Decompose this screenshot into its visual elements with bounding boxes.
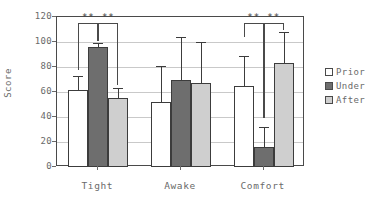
legend-swatch-after: [325, 96, 333, 104]
y-axis-tick-mark: [52, 166, 56, 167]
legend-label: Under: [336, 81, 365, 91]
bracket-right-arm: [117, 23, 118, 84]
y-axis-tick-label: 80: [14, 61, 52, 71]
bracket-crossbar: [98, 23, 118, 24]
x-axis-tick-mark: [97, 166, 98, 170]
chart-legend: PriorUnderAfter: [325, 65, 365, 107]
bar-under-tight: [88, 47, 108, 167]
error-bar-stem: [244, 56, 245, 86]
x-axis-tick-mark: [263, 166, 264, 170]
bar-prior-tight: [68, 90, 88, 168]
error-bar-cap: [93, 43, 103, 44]
error-bar-cap: [196, 42, 206, 43]
x-axis-tick-label-comfort: Comfort: [221, 180, 304, 191]
significance-marker: **: [98, 13, 118, 22]
y-axis-tick-label: 0: [14, 161, 52, 171]
x-axis-tick-mark: [180, 166, 181, 170]
bracket-left-arm: [78, 23, 79, 69]
error-bar-stem: [264, 127, 265, 147]
error-bar-cap: [279, 32, 289, 33]
bracket-crossbar: [244, 23, 264, 24]
error-bar-cap: [113, 88, 123, 89]
bracket-crossbar: [264, 23, 284, 24]
bar-after-comfort: [274, 63, 294, 167]
bracket-crossbar: [78, 23, 98, 24]
bar-prior-awake: [151, 102, 171, 167]
bar-after-tight: [108, 98, 128, 167]
legend-item-under[interactable]: Under: [325, 79, 365, 93]
legend-swatch-under: [325, 82, 333, 90]
error-bar-cap: [239, 56, 249, 57]
plot-inner: ********: [57, 17, 303, 165]
significance-marker: **: [264, 13, 284, 22]
bar-under-awake: [171, 80, 191, 168]
y-axis-tick-label: 120: [14, 11, 52, 21]
legend-label: Prior: [336, 67, 365, 77]
y-axis-tick-label: 60: [14, 86, 52, 96]
legend-item-prior[interactable]: Prior: [325, 65, 365, 79]
x-axis-tick-label-tight: Tight: [56, 180, 139, 191]
error-bar-stem: [284, 32, 285, 63]
bracket-right-arm: [283, 23, 284, 29]
significance-marker: **: [244, 13, 264, 22]
error-bar-stem: [118, 88, 119, 98]
error-bar-cap: [73, 76, 83, 77]
bar-after-awake: [191, 83, 211, 167]
plot-area: ********: [56, 16, 304, 166]
error-bar-cap: [176, 37, 186, 38]
significance-marker: **: [78, 13, 98, 22]
error-bar-stem: [181, 37, 182, 80]
error-bar-stem: [201, 42, 202, 83]
bracket-left-arm: [244, 23, 245, 37]
y-axis-tick-label: 20: [14, 136, 52, 146]
legend-item-after[interactable]: After: [325, 93, 365, 107]
error-bar-cap: [156, 66, 166, 67]
error-bar-stem: [78, 76, 79, 90]
x-axis-tick-label-awake: Awake: [139, 180, 222, 191]
bar-prior-comfort: [234, 86, 254, 167]
bracket-left-arm: [264, 23, 265, 118]
legend-label: After: [336, 95, 365, 105]
error-bar-stem: [161, 66, 162, 102]
y-axis-title: Score: [3, 53, 13, 113]
y-axis-tick-label: 100: [14, 36, 52, 46]
y-axis-tick-label: 40: [14, 111, 52, 121]
error-bar-cap: [259, 127, 269, 128]
legend-swatch-prior: [325, 68, 333, 76]
chart-figure: Score 020406080100120 ******** TightAwak…: [0, 0, 388, 204]
bar-under-comfort: [254, 147, 274, 167]
bracket-left-arm: [98, 23, 99, 41]
